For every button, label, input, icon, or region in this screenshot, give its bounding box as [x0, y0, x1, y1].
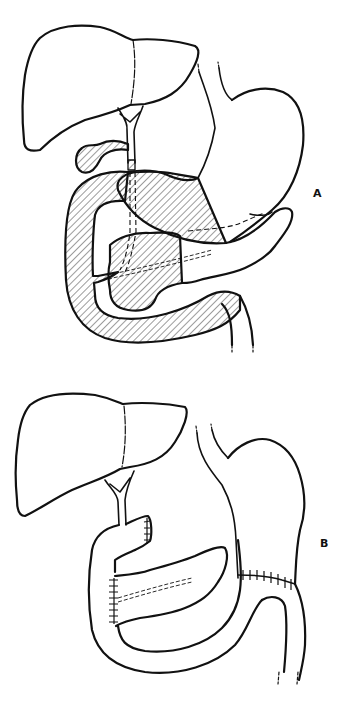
panel-label-b: B [320, 537, 328, 550]
gastrojejunostomy-line-b [238, 575, 295, 584]
pancreaticojejunostomy-stitches-b [109, 578, 118, 624]
jejunal-loop-inner-b [115, 540, 241, 652]
surgical-diagram: A B [0, 0, 344, 702]
panel-b: B [16, 394, 329, 684]
efferent-jejunum-b [262, 584, 305, 680]
gallbladder-a [76, 141, 128, 173]
choledochojejunostomy-stitches-b [144, 518, 150, 544]
panel-a: A [23, 26, 322, 352]
esophagus-cut-b [196, 424, 212, 433]
liver-lobe-line-a [131, 40, 135, 104]
pancreatic-duct-b [118, 578, 192, 602]
liver-lobe-line-b [122, 406, 125, 467]
esophagus-cut-a [198, 62, 219, 72]
liver-a [23, 26, 199, 151]
pancreas-head-a [109, 232, 183, 310]
pancreas-remnant-b [115, 547, 227, 626]
esophagus-a [198, 68, 232, 178]
jejunum-cut-a [232, 345, 253, 352]
efferent-jejunum-cut-b [278, 672, 298, 684]
bile-duct-b [105, 471, 134, 525]
bile-duct-a [118, 106, 143, 163]
panel-label-a: A [313, 187, 322, 200]
bile-duct-distal-a [128, 160, 135, 170]
liver-b [16, 394, 187, 516]
